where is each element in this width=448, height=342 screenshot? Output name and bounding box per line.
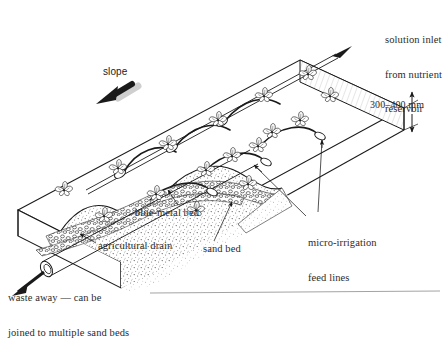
label-waste-away-line-2: joined to multiple sand beds (8, 327, 129, 339)
label-waste-away: waste away — can be joined to multiple s… (8, 269, 129, 342)
label-blue-metal-bed: blue-metal bed (135, 207, 199, 219)
label-waste-away-line-1: waste away — can be (8, 292, 129, 304)
label-sand-bed: sand bed (203, 243, 241, 255)
label-micro-irrigation: micro-irrigation feed lines (308, 214, 377, 295)
label-slope: slope (103, 66, 127, 78)
label-depth-dimension: 300–400 mm (370, 99, 424, 111)
label-micro-irrigation-line-1: micro-irrigation (308, 237, 377, 249)
label-micro-irrigation-line-2: feed lines (308, 272, 377, 284)
label-agricultural-drain: agricultural drain (98, 240, 172, 252)
label-solution-inlet-line-2: from nutrient (385, 69, 442, 81)
label-solution-inlet-line-1: solution inlet (385, 34, 442, 46)
